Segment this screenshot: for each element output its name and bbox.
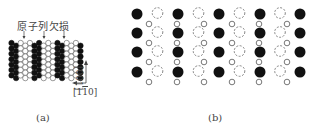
vacancy-dashed-atom xyxy=(152,8,163,19)
small-atom xyxy=(229,40,235,46)
vacancy-dashed-atom xyxy=(275,8,286,19)
vacancy-dashed-atom xyxy=(152,46,163,57)
small-atom xyxy=(174,59,180,65)
small-atom xyxy=(174,79,180,85)
small-atom xyxy=(201,59,207,65)
small-atom xyxy=(256,21,262,27)
small-atom xyxy=(284,79,290,85)
black-atom-large xyxy=(255,47,266,58)
missing-atom-column-label: 原子列欠损 xyxy=(17,18,70,33)
black-atom-large xyxy=(132,9,143,20)
small-atom xyxy=(174,40,180,46)
small-atom xyxy=(201,79,207,85)
black-atom xyxy=(78,59,83,64)
black-atom-large xyxy=(173,28,184,39)
small-atom xyxy=(284,59,290,65)
small-atom xyxy=(201,40,207,46)
small-atom xyxy=(256,79,262,85)
black-atom-large xyxy=(173,47,184,58)
caption-b: (b) xyxy=(208,112,222,123)
caption-a: (a) xyxy=(36,112,50,123)
vacancy-dashed-atom xyxy=(234,46,245,57)
small-atom xyxy=(284,40,290,46)
black-atom-large xyxy=(255,28,266,39)
black-atom-large xyxy=(255,67,266,78)
small-atom xyxy=(174,21,180,27)
vacancy-dashed-atom xyxy=(152,27,163,38)
black-atom-large xyxy=(295,67,306,78)
arrowhead-icon xyxy=(23,36,26,39)
black-atom-large xyxy=(295,47,306,58)
vacancy-dashed-atom xyxy=(193,46,204,57)
vacancy-dashed-atom xyxy=(193,27,204,38)
small-atom xyxy=(229,59,235,65)
black-atom-large xyxy=(295,28,306,39)
small-atom xyxy=(229,79,235,85)
arrowhead-icon xyxy=(43,36,46,39)
black-atom xyxy=(78,43,83,48)
vacancy-dashed-atom xyxy=(152,66,163,77)
vacancy-dashed-atom xyxy=(193,8,204,19)
black-atom xyxy=(78,54,83,59)
arrowhead-icon xyxy=(63,36,66,39)
vacancy-dashed-atom xyxy=(275,66,286,77)
black-atom-large xyxy=(214,47,225,58)
small-atom xyxy=(146,79,152,85)
black-atom-large xyxy=(214,28,225,39)
small-atom xyxy=(146,59,152,65)
vacancy-dashed-atom xyxy=(275,27,286,38)
small-atom xyxy=(256,40,262,46)
vacancy-dashed-atom xyxy=(234,66,245,77)
black-atom-large xyxy=(173,67,184,78)
black-atom-large xyxy=(173,9,184,20)
small-atom xyxy=(146,21,152,27)
small-atom xyxy=(256,59,262,65)
small-atom xyxy=(146,40,152,46)
black-atom-large xyxy=(255,9,266,20)
axis-label-1-10: [110] xyxy=(73,87,97,97)
black-atom-large xyxy=(132,47,143,58)
black-atom-large xyxy=(214,67,225,78)
black-atom-large xyxy=(132,28,143,39)
black-atom xyxy=(78,48,83,53)
small-atom xyxy=(201,21,207,27)
vacancy-dashed-atom xyxy=(234,8,245,19)
arrowhead-up-icon xyxy=(84,60,88,65)
black-atom-large xyxy=(132,67,143,78)
black-atom-large xyxy=(214,9,225,20)
small-atom xyxy=(229,21,235,27)
vacancy-dashed-atom xyxy=(193,66,204,77)
vacancy-dashed-atom xyxy=(234,27,245,38)
black-atom-large xyxy=(295,9,306,20)
small-atom xyxy=(284,21,290,27)
vacancy-dashed-atom xyxy=(275,46,286,57)
